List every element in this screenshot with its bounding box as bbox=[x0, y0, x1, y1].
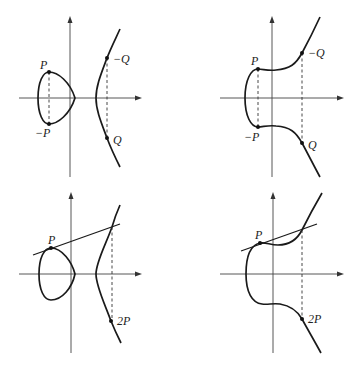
elliptic-curve-figure: P −P −Q Q P −P −Q Q bbox=[0, 0, 360, 365]
axes bbox=[220, 16, 344, 177]
axes bbox=[220, 192, 344, 353]
axes bbox=[19, 192, 142, 353]
label-p: P bbox=[250, 54, 259, 68]
panel-top-left: P −P −Q Q bbox=[19, 16, 142, 177]
label-neg-p: −P bbox=[35, 126, 51, 140]
label-2p: 2P bbox=[117, 314, 131, 328]
tangent-line bbox=[241, 224, 317, 251]
label-p: P bbox=[39, 58, 48, 72]
panel-bottom-right: P 2P bbox=[220, 192, 344, 353]
label-neg-p: −P bbox=[244, 130, 260, 144]
label-q: Q bbox=[113, 133, 122, 147]
label-q: Q bbox=[308, 138, 317, 152]
label-p: P bbox=[254, 228, 263, 242]
label-neg-q: −Q bbox=[113, 52, 130, 66]
label-2p: 2P bbox=[308, 312, 322, 326]
label-neg-q: −Q bbox=[308, 46, 325, 60]
label-p: P bbox=[47, 233, 56, 247]
panel-top-right: P −P −Q Q bbox=[220, 16, 344, 177]
panel-bottom-left: P 2P bbox=[19, 192, 142, 353]
